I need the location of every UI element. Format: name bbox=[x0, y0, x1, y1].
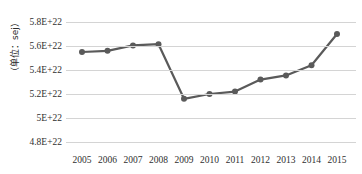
gridline bbox=[66, 70, 356, 71]
gridline bbox=[66, 142, 356, 143]
data-point-marker bbox=[181, 96, 187, 102]
series-polyline bbox=[82, 34, 337, 99]
data-point-marker bbox=[105, 48, 111, 54]
y-axis-tick-label: 5.6E+22 bbox=[16, 41, 62, 51]
x-axis-tick-label: 2015 bbox=[320, 154, 354, 166]
y-axis-tick-label: 5.8E+22 bbox=[16, 17, 62, 27]
y-axis-tick-label: 5E+22 bbox=[16, 113, 62, 123]
y-axis-tick-label: 5.2E+22 bbox=[16, 89, 62, 99]
gridline bbox=[66, 22, 356, 23]
gridline bbox=[66, 118, 356, 119]
data-point-marker bbox=[79, 49, 85, 55]
data-point-marker bbox=[334, 31, 340, 37]
gridline bbox=[66, 46, 356, 47]
data-point-marker bbox=[258, 77, 264, 83]
y-axis-tick-label: 4.8E+22 bbox=[16, 137, 62, 147]
data-point-marker bbox=[283, 72, 289, 78]
plot-area bbox=[66, 0, 356, 150]
emergy-line-chart: （单位：sej） 5.8E+225.6E+225.4E+225.2E+225E+… bbox=[0, 0, 362, 174]
x-axis-tick-labels: 2005200620072008200920102011201220132014… bbox=[66, 150, 356, 172]
y-axis-tick-labels: 5.8E+225.6E+225.4E+225.2E+225E+224.8E+22 bbox=[14, 0, 62, 174]
gridline bbox=[66, 94, 356, 95]
y-axis-tick-label: 5.4E+22 bbox=[16, 65, 62, 75]
data-point-marker bbox=[309, 62, 315, 68]
